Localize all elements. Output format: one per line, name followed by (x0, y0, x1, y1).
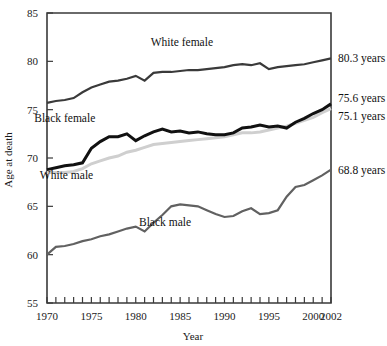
x-tick-label: 2002 (320, 310, 342, 322)
series-label-white-female: White female (151, 36, 213, 48)
y-tick-label: 55 (27, 297, 39, 309)
series-end-value-labels: 80.3 years75.6 years75.1 years68.8 years (338, 52, 386, 176)
x-tick-label: 1985 (169, 310, 192, 322)
plot-frame (47, 13, 331, 303)
series-label-white-male: White male (40, 169, 93, 181)
x-tick-label: 1980 (125, 310, 148, 322)
x-tick-label: 1975 (80, 310, 103, 322)
y-tick-label: 70 (27, 152, 39, 164)
y-axis-tick-labels: 55606570758085 (27, 7, 39, 309)
x-axis-ticks (47, 297, 331, 303)
y-tick-label: 80 (27, 55, 39, 67)
x-tick-label: 1995 (258, 310, 281, 322)
x-tick-label: 1970 (36, 310, 59, 322)
end-label-white-male: 75.1 years (338, 110, 386, 123)
chart-container: 55606570758085 1970197519801985199019952… (0, 0, 387, 346)
x-axis-tick-labels: 19701975198019851990199520002002 (36, 310, 342, 322)
series-label-black-male: Black male (139, 216, 191, 228)
end-label-black-female: 75.6 years (338, 92, 386, 105)
series-line-white-female (47, 58, 331, 102)
y-tick-label: 85 (27, 7, 39, 19)
age-at-death-line-chart: 55606570758085 1970197519801985199019952… (0, 0, 387, 346)
y-tick-label: 60 (27, 249, 39, 261)
y-axis-title: Age at death (2, 132, 14, 188)
series-line-black-male (47, 170, 331, 255)
series-label-black-female: Black female (34, 112, 95, 124)
x-axis-title: Year (183, 330, 204, 342)
plot-border (47, 13, 331, 303)
y-axis-ticks (47, 13, 53, 303)
x-tick-label: 1990 (214, 310, 237, 322)
y-tick-label: 65 (27, 200, 39, 212)
end-label-white-female: 80.3 years (338, 52, 386, 65)
end-label-black-male: 68.8 years (338, 164, 386, 177)
